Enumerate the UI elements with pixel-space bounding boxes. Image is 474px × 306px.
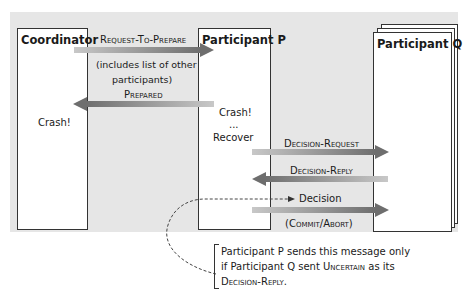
label-request-to-prepare: Request-To-Prepare: [100, 34, 186, 45]
note-line-1: Participant P sends this message only: [221, 244, 410, 259]
label-decision-note: (Commit/Abort): [285, 218, 353, 229]
label-decision-request: Decision-Request: [284, 138, 359, 149]
label-request-note-2: participants): [112, 74, 172, 85]
arrow-request-to-prepare: [74, 43, 214, 57]
arrow-decision: [252, 203, 389, 217]
p-crash: Crash!: [219, 107, 252, 118]
annotation-note: Participant P sends this message only if…: [214, 244, 410, 289]
label-prepared: Prepared: [124, 89, 163, 100]
note-line-3: Decision-Reply.: [221, 274, 410, 289]
p-recover: Recover: [213, 132, 253, 143]
note-line-2: if Participant Q sent Uncertain as its: [221, 259, 410, 274]
label-request-note-1: (includes list of other: [96, 59, 197, 70]
label-decision-reply: Decision-Reply: [290, 165, 353, 176]
dashed-pointer-arrowhead: [288, 196, 295, 202]
p-dots: ...: [229, 119, 239, 130]
coordinator-crash: Crash!: [38, 117, 71, 128]
label-decision: Decision: [299, 193, 342, 204]
